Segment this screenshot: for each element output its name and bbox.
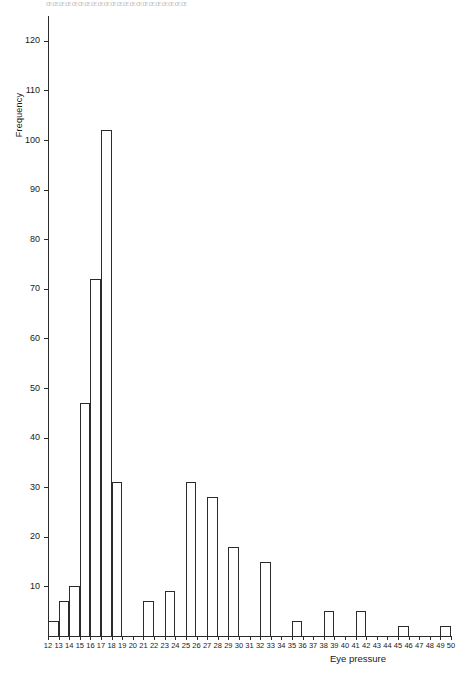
x-tick-label: 49 <box>436 642 444 650</box>
x-tick-label: 24 <box>171 642 179 650</box>
x-tick-mark <box>377 636 378 640</box>
histogram-bar <box>356 611 367 636</box>
y-tick-label: 40 <box>14 433 40 442</box>
x-tick-mark <box>398 636 399 640</box>
histogram-bar <box>69 586 80 636</box>
x-tick-mark <box>334 636 335 640</box>
x-tick-label: 50 <box>447 642 455 650</box>
x-tick-label: 45 <box>394 642 402 650</box>
y-tick-mark <box>44 388 49 389</box>
x-tick-mark <box>122 636 123 640</box>
x-tick-mark <box>228 636 229 640</box>
x-tick-mark <box>366 636 367 640</box>
y-tick-label: 20 <box>14 532 40 541</box>
y-tick-mark <box>44 90 49 91</box>
x-tick-label: 46 <box>404 642 412 650</box>
y-tick-label: 50 <box>14 384 40 393</box>
x-tick-mark <box>133 636 134 640</box>
y-tick-label: 70 <box>14 284 40 293</box>
x-tick-mark <box>271 636 272 640</box>
x-tick-mark <box>80 636 81 640</box>
histogram-chart: 102030405060708090100110120 121314151617… <box>0 0 459 676</box>
x-tick-mark <box>292 636 293 640</box>
x-tick-label: 32 <box>256 642 264 650</box>
x-tick-mark <box>250 636 251 640</box>
x-tick-label: 35 <box>288 642 296 650</box>
y-tick-label: 80 <box>14 235 40 244</box>
y-tick-mark <box>44 289 49 290</box>
histogram-bar <box>207 497 218 636</box>
x-tick-label: 39 <box>330 642 338 650</box>
x-tick-label: 20 <box>129 642 137 650</box>
y-tick-label: 10 <box>14 582 40 591</box>
x-tick-label: 21 <box>139 642 147 650</box>
x-tick-mark <box>260 636 261 640</box>
x-tick-mark <box>419 636 420 640</box>
x-tick-mark <box>345 636 346 640</box>
histogram-bar <box>324 611 335 636</box>
x-axis-title: Eye pressure <box>330 653 386 664</box>
histogram-bar <box>48 621 59 636</box>
x-tick-mark <box>154 636 155 640</box>
x-tick-label: 22 <box>150 642 158 650</box>
histogram-bar <box>101 130 112 636</box>
x-tick-label: 36 <box>298 642 306 650</box>
x-tick-label: 34 <box>277 642 285 650</box>
y-tick-mark <box>44 239 49 240</box>
histogram-bar <box>59 601 70 636</box>
x-tick-label: 33 <box>267 642 275 650</box>
x-tick-label: 17 <box>97 642 105 650</box>
x-tick-label: 12 <box>44 642 52 650</box>
histogram-bar <box>112 482 123 636</box>
x-tick-mark <box>239 636 240 640</box>
x-tick-mark <box>430 636 431 640</box>
x-tick-mark <box>387 636 388 640</box>
histogram-bar <box>398 626 409 636</box>
x-tick-mark <box>207 636 208 640</box>
x-tick-label: 13 <box>54 642 62 650</box>
x-tick-mark <box>218 636 219 640</box>
x-tick-mark <box>48 636 49 640</box>
y-tick-label: 60 <box>14 334 40 343</box>
x-tick-label: 19 <box>118 642 126 650</box>
y-tick-mark <box>44 586 49 587</box>
y-tick-mark <box>44 487 49 488</box>
y-axis-title: Frequency <box>14 75 24 155</box>
x-tick-label: 42 <box>362 642 370 650</box>
y-tick-mark <box>44 438 49 439</box>
x-tick-label: 29 <box>224 642 232 650</box>
x-tick-label: 31 <box>245 642 253 650</box>
x-tick-label: 26 <box>192 642 200 650</box>
x-tick-label: 44 <box>383 642 391 650</box>
x-tick-label: 43 <box>373 642 381 650</box>
x-tick-label: 14 <box>65 642 73 650</box>
x-tick-mark <box>101 636 102 640</box>
x-tick-label: 48 <box>426 642 434 650</box>
y-axis-line <box>48 16 49 637</box>
x-tick-mark <box>281 636 282 640</box>
x-tick-mark <box>59 636 60 640</box>
x-tick-label: 47 <box>415 642 423 650</box>
x-tick-label: 37 <box>309 642 317 650</box>
x-tick-mark <box>303 636 304 640</box>
x-tick-label: 18 <box>107 642 115 650</box>
x-tick-label: 28 <box>214 642 222 650</box>
histogram-bar <box>260 562 271 636</box>
x-tick-mark <box>69 636 70 640</box>
y-tick-mark <box>44 190 49 191</box>
y-tick-label: 120 <box>14 36 40 45</box>
x-tick-label: 40 <box>341 642 349 650</box>
y-tick-label: 90 <box>14 185 40 194</box>
x-tick-label: 41 <box>351 642 359 650</box>
x-tick-mark <box>451 636 452 640</box>
y-tick-mark <box>44 41 49 42</box>
x-tick-label: 15 <box>76 642 84 650</box>
x-tick-mark <box>112 636 113 640</box>
histogram-bar <box>292 621 303 636</box>
x-tick-mark <box>324 636 325 640</box>
x-tick-mark <box>440 636 441 640</box>
histogram-bar <box>165 591 176 636</box>
x-tick-mark <box>90 636 91 640</box>
x-tick-label: 27 <box>203 642 211 650</box>
histogram-bar <box>143 601 154 636</box>
